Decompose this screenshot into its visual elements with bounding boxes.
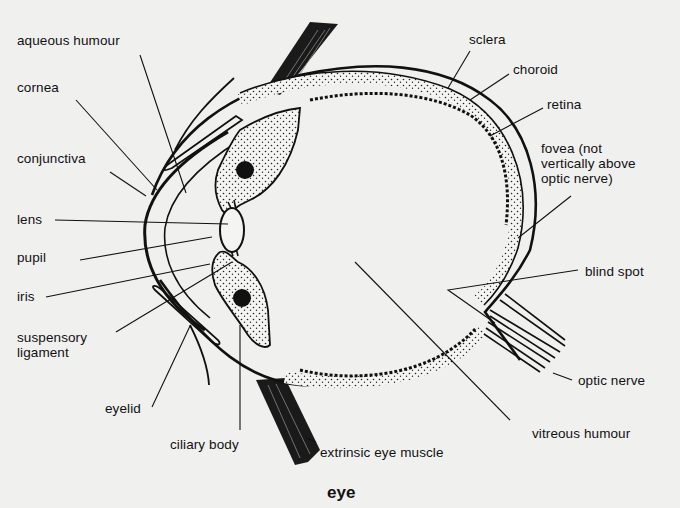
label-cornea: cornea xyxy=(17,80,59,95)
cornea xyxy=(145,132,228,330)
ciliary-muscle-upper xyxy=(236,161,254,179)
label-eyelid: eyelid xyxy=(105,401,141,416)
optic-nerve xyxy=(484,294,565,372)
label-retina: retina xyxy=(547,97,581,112)
label-lens: lens xyxy=(17,212,42,227)
label-iris: iris xyxy=(17,289,35,304)
label-ciliary-body: ciliary body xyxy=(170,437,239,452)
eye-diagram: aqueous humour cornea conjunctiva lens p… xyxy=(0,0,680,508)
ciliary-body-upper xyxy=(215,108,300,213)
label-vitreous-humour: vitreous humour xyxy=(532,426,630,441)
label-optic-nerve: optic nerve xyxy=(578,373,645,388)
label-extrinsic-eye-muscle: extrinsic eye muscle xyxy=(320,445,444,460)
label-choroid: choroid xyxy=(513,62,558,77)
label-fovea: fovea (not vertically above optic nerve) xyxy=(541,141,636,186)
label-aqueous-humour: aqueous humour xyxy=(17,33,120,48)
ciliary-muscle-lower xyxy=(233,289,251,307)
lower-eyelid xyxy=(153,286,220,385)
label-suspensory-ligament: suspensory ligament xyxy=(17,330,87,360)
label-pupil: pupil xyxy=(17,250,46,265)
label-sclera: sclera xyxy=(469,32,506,47)
label-conjunctiva: conjunctiva xyxy=(17,151,86,166)
label-blind-spot: blind spot xyxy=(585,264,644,279)
lens xyxy=(220,208,244,252)
extrinsic-muscle-bottom xyxy=(256,378,320,465)
diagram-title: eye xyxy=(327,483,355,503)
